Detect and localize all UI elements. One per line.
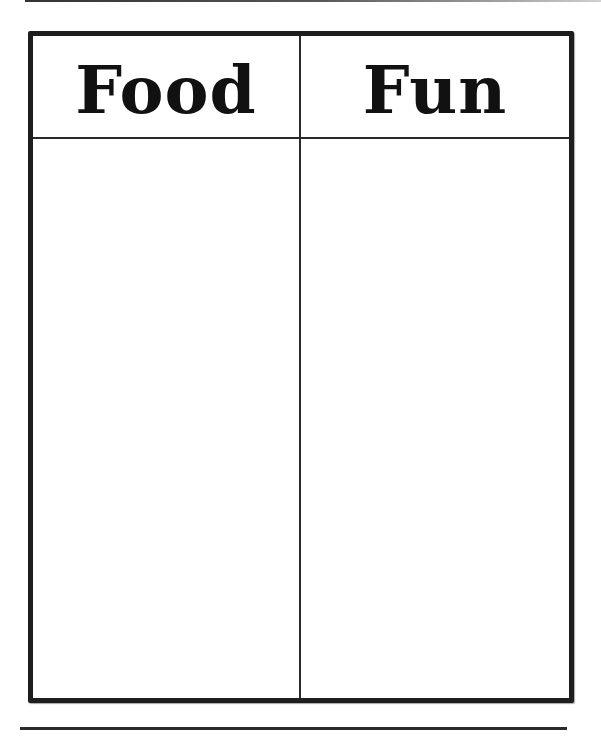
column-header-food: Food	[33, 36, 299, 137]
fun-writing-area[interactable]	[301, 139, 569, 698]
bottom-rule-line	[20, 727, 567, 730]
food-writing-area[interactable]	[33, 139, 299, 698]
top-rule-line	[25, 0, 601, 2]
t-chart-table: Food Fun	[28, 31, 574, 703]
column-header-fun: Fun	[301, 36, 569, 137]
